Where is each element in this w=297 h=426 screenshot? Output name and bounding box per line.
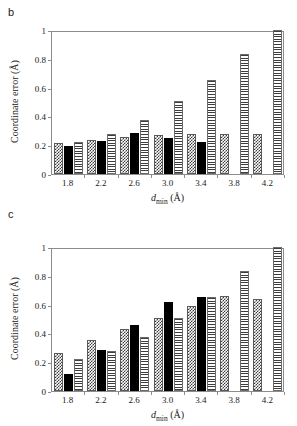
- b-bar-group: [187, 32, 217, 174]
- panel-b-x-axis-title: dmin (Å): [51, 192, 284, 206]
- bar-solid-black-2.2: [97, 350, 106, 391]
- bar-checkerboard-4.2: [253, 299, 262, 391]
- bar-checkerboard-3.8: [220, 134, 229, 174]
- b-x-tick-label: 3.4: [195, 178, 206, 188]
- c-bar-group: [220, 249, 250, 391]
- b-bar-group: [253, 32, 283, 174]
- bar-solid-black-3.4: [197, 142, 206, 174]
- panel-b-x-axis-unit: (Å): [168, 192, 184, 203]
- bar-checkerboard-1.8: [54, 143, 63, 174]
- b-bar-group: [120, 32, 150, 174]
- b-y-tick-label: 0: [42, 170, 47, 180]
- b-x-tick-label: 1.8: [62, 178, 73, 188]
- c-y-tick-label: 0: [42, 387, 47, 397]
- bar-horizontal-stripes-2.6: [140, 120, 149, 174]
- bar-horizontal-stripes-3.4: [207, 80, 216, 174]
- b-x-tick-label: 2.6: [129, 178, 140, 188]
- bar-solid-black-3.4: [197, 297, 206, 391]
- panel-c-y-axis-title-text: Coordinate error (: [9, 288, 20, 360]
- c-x-tick-mark: [284, 392, 285, 395]
- c-x-tick-label: 3.8: [228, 395, 239, 405]
- c-bar-group: [253, 249, 283, 391]
- panel-c: c Coordinate error (Å) 00.20.40.60.81 1.…: [0, 205, 297, 426]
- b-y-tick-label: 0.6: [35, 84, 46, 94]
- bar-checkerboard-2.2: [87, 140, 96, 174]
- panel-c-bars: [52, 249, 283, 391]
- b-x-tick-label: 2.2: [95, 178, 106, 188]
- b-x-tick-label: 3.8: [228, 178, 239, 188]
- panel-b-plot-area: [51, 31, 284, 175]
- c-x-tick-label: 4.2: [262, 395, 273, 405]
- c-bar-group: [187, 249, 217, 391]
- bar-solid-black-2.2: [97, 141, 106, 174]
- bar-horizontal-stripes-3.0: [174, 318, 183, 391]
- c-y-tick-label: 0.4: [35, 329, 46, 339]
- panel-b-label: b: [8, 6, 14, 18]
- c-bar-group: [120, 249, 150, 391]
- c-y-tick-label: 1: [42, 243, 47, 253]
- panel-c-label: c: [8, 208, 14, 220]
- bar-horizontal-stripes-2.6: [140, 337, 149, 391]
- c-x-tick-label: 2.6: [129, 395, 140, 405]
- b-y-tick-label: 0.4: [35, 112, 46, 122]
- b-x-tick-label: 3.0: [162, 178, 173, 188]
- panel-b: b Coordinate error (Å) 00.20.40.60.81 1.…: [0, 0, 297, 213]
- bar-solid-black-3.0: [164, 302, 173, 391]
- bar-solid-black-1.8: [64, 146, 73, 174]
- c-x-tick-label: 3.4: [195, 395, 206, 405]
- figure-bar-charts: b Coordinate error (Å) 00.20.40.60.81 1.…: [0, 0, 297, 426]
- bar-checkerboard-3.4: [187, 306, 196, 391]
- c-y-tick-label: 0.6: [35, 301, 46, 311]
- angstrom-symbol: Å: [9, 280, 20, 287]
- b-x-tick-mark: [284, 175, 285, 178]
- bar-horizontal-stripes-4.2: [273, 30, 282, 174]
- c-x-tick-label: 1.8: [62, 395, 73, 405]
- panel-b-y-axis-title-suffix: ): [9, 60, 20, 63]
- b-y-tick-label: 0.8: [35, 55, 46, 65]
- b-bar-group: [87, 32, 117, 174]
- bar-solid-black-2.6: [130, 133, 139, 174]
- c-bar-group: [54, 249, 84, 391]
- bar-horizontal-stripes-3.8: [240, 271, 249, 391]
- panel-c-y-axis-title: Coordinate error (Å): [9, 247, 20, 391]
- bar-horizontal-stripes-1.8: [74, 142, 83, 174]
- bar-horizontal-stripes-2.2: [107, 134, 116, 174]
- bar-checkerboard-3.4: [187, 134, 196, 174]
- panel-c-x-axis-unit: (Å): [168, 409, 184, 420]
- bar-horizontal-stripes-2.2: [107, 351, 116, 391]
- b-y-tick-label: 0.2: [35, 141, 46, 151]
- bar-horizontal-stripes-1.8: [74, 359, 83, 391]
- bar-checkerboard-4.2: [253, 134, 262, 174]
- panel-c-x-tick-labels: 1.82.22.63.03.43.84.2: [51, 395, 284, 409]
- b-bar-group: [154, 32, 184, 174]
- b-x-tick-label: 4.2: [262, 178, 273, 188]
- b-bar-group: [54, 32, 84, 174]
- bar-checkerboard-1.8: [54, 353, 63, 391]
- bar-solid-black-1.8: [64, 374, 73, 391]
- panel-c-plot-area: [51, 248, 284, 392]
- c-x-tick-label: 3.0: [162, 395, 173, 405]
- c-x-tick-label: 2.2: [95, 395, 106, 405]
- bar-checkerboard-2.6: [120, 137, 129, 174]
- panel-c-y-tick-labels: 00.20.40.60.81: [22, 248, 46, 392]
- panel-c-x-axis-title: dmin (Å): [51, 409, 284, 423]
- c-bar-group: [154, 249, 184, 391]
- panel-c-y-axis-title-suffix: ): [9, 277, 20, 280]
- bar-solid-black-2.6: [130, 325, 139, 391]
- c-bar-group: [87, 249, 117, 391]
- b-bar-group: [220, 32, 250, 174]
- c-y-tick-label: 0.2: [35, 358, 46, 368]
- bar-checkerboard-3.0: [154, 135, 163, 174]
- panel-b-y-axis-title-text: Coordinate error (: [9, 71, 20, 143]
- bar-solid-black-3.0: [164, 138, 173, 174]
- bar-checkerboard-3.8: [220, 296, 229, 391]
- c-y-tick-label: 0.8: [35, 272, 46, 282]
- bar-checkerboard-2.2: [87, 340, 96, 391]
- b-y-tick-label: 1: [42, 26, 47, 36]
- panel-b-x-tick-labels: 1.82.22.63.03.43.84.2: [51, 178, 284, 192]
- panel-c-x-axis-subscript: min: [156, 414, 168, 423]
- bar-checkerboard-2.6: [120, 329, 129, 391]
- panel-b-y-tick-labels: 00.20.40.60.81: [22, 31, 46, 175]
- panel-b-y-axis-title: Coordinate error (Å): [9, 30, 20, 174]
- bar-horizontal-stripes-4.2: [273, 247, 282, 391]
